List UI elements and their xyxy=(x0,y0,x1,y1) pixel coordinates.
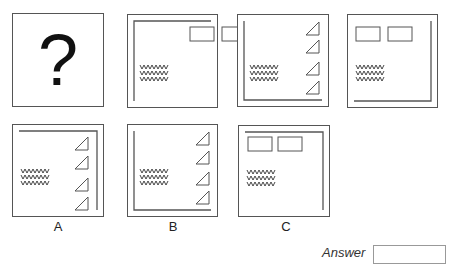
inner-corner-line xyxy=(245,132,323,210)
rectangle-icon xyxy=(388,27,412,41)
answer-input[interactable] xyxy=(373,245,446,264)
option-a-label: A xyxy=(48,219,68,234)
answer-label: Answer xyxy=(322,245,365,260)
triangle-icon xyxy=(196,172,209,185)
question-mark-icon: ? xyxy=(13,14,103,106)
triangle-icon xyxy=(306,40,319,53)
inner-corner-line xyxy=(19,131,97,210)
option-c-label: C xyxy=(276,219,296,234)
panel-figure xyxy=(238,15,328,106)
zigzag-lines-icon xyxy=(356,65,384,81)
triangle-icon xyxy=(306,62,319,75)
inner-corner-line xyxy=(244,21,322,100)
zigzag-lines-icon xyxy=(21,169,49,185)
rectangle-icon xyxy=(190,27,214,41)
zigzag-lines-icon xyxy=(250,65,278,81)
option-c-panel[interactable] xyxy=(238,125,330,217)
rectangle-icon xyxy=(278,137,302,151)
zigzag-lines-icon xyxy=(247,170,275,186)
zigzag-lines-icon xyxy=(140,169,168,185)
rectangle-icon xyxy=(356,27,380,41)
triangle-icon xyxy=(196,132,209,145)
panel-figure xyxy=(239,126,329,216)
sequence-panel-3 xyxy=(237,14,329,107)
zigzag-lines-icon xyxy=(140,65,168,81)
triangle-icon xyxy=(75,156,88,169)
triangle-icon xyxy=(196,151,209,164)
sequence-panel-4 xyxy=(347,14,438,108)
triangle-icon xyxy=(306,22,319,35)
triangle-icon xyxy=(75,137,88,150)
option-b-label: B xyxy=(163,219,183,234)
sequence-panel-2 xyxy=(127,14,218,108)
option-b-panel[interactable] xyxy=(127,124,218,217)
triangle-icon xyxy=(196,191,209,204)
panel-figure xyxy=(128,125,217,216)
sequence-panel-1: ? xyxy=(12,13,104,107)
inner-corner-line xyxy=(134,21,211,101)
panel-figure xyxy=(128,15,217,107)
triangle-icon xyxy=(306,81,319,94)
triangle-icon xyxy=(75,178,88,191)
inner-corner-line xyxy=(134,131,211,210)
triangle-icon xyxy=(75,197,88,210)
panel-figure xyxy=(348,15,437,107)
option-a-panel[interactable] xyxy=(12,124,104,217)
rectangle-icon xyxy=(248,137,272,151)
inner-corner-line xyxy=(354,21,431,101)
panel-figure xyxy=(13,125,103,216)
